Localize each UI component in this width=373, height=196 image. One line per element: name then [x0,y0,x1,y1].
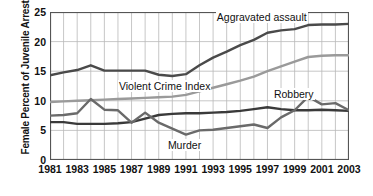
x-axis-ticks: 1981198319851987198919911993199519971999… [0,163,373,183]
y-tick-label: 25 [34,6,46,18]
x-tick-label: 1995 [229,163,252,175]
y-tick-label: 20 [34,36,46,48]
x-tick-label: 2001 [310,163,333,175]
x-tick-label: 1993 [201,163,224,175]
y-tick-label: 10 [34,95,46,107]
x-tick-label: 1985 [93,163,116,175]
y-tick-label: 5 [40,124,46,136]
x-tick-label: 1991 [174,163,197,175]
y-tick-label: 15 [34,65,46,77]
x-tick-label: 1989 [147,163,170,175]
x-tick-label: 1983 [65,163,88,175]
chart-container: Female Percent of Juvenile Arrests 05101… [0,0,373,196]
x-tick-label: 2003 [337,163,360,175]
series-label-aggravated-assault: Aggravated assault [216,11,308,23]
x-tick-label: 1981 [38,163,61,175]
series-label-murder: Murder [167,139,202,151]
y-axis-title: Female Percent of Juvenile Arrests [20,3,31,155]
plot-area: Aggravated assaultViolent Crime IndexRob… [50,12,349,160]
series-label-violent-crime-index: Violent Crime Index [118,80,211,92]
x-tick-label: 1999 [283,163,306,175]
x-tick-label: 1997 [256,163,279,175]
x-tick-label: 1987 [120,163,143,175]
series-label-robbery: Robbery [273,88,315,100]
